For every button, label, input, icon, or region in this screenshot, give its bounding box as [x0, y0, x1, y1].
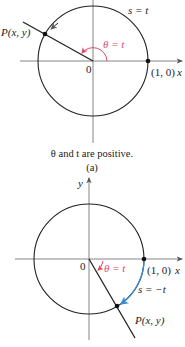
point-p-label: P(x, y): [134, 314, 165, 327]
x-axis-label: x: [176, 66, 182, 78]
angle-arc-icon: [98, 261, 103, 270]
point-unit: [146, 59, 151, 64]
figure-a: P(x, y) s = t θ = t 0 (1, 0) x θ and t a…: [0, 0, 182, 174]
sublabel-a: (a): [86, 162, 98, 174]
unit-point-label: (1, 0): [151, 66, 175, 79]
arc-length-label: s = t: [128, 4, 149, 16]
y-axis-label: y: [77, 177, 83, 189]
origin-label: 0: [86, 63, 92, 75]
figure-b: y 0 θ = t (1, 0) x s = −t P(x, y): [15, 177, 182, 340]
unit-point-label: (1, 0): [147, 264, 171, 277]
caption-a: θ and t are positive.: [51, 148, 133, 159]
arc-length-label: s = −t: [138, 283, 167, 295]
origin-label: 0: [80, 260, 86, 272]
x-axis-label: x: [174, 264, 180, 276]
point-p: [115, 304, 120, 309]
unit-circle-diagram: P(x, y) s = t θ = t 0 (1, 0) x θ and t a…: [0, 0, 185, 347]
point-p: [43, 32, 48, 37]
terminal-ray: [23, 22, 93, 61]
point-p-label: P(x, y): [0, 26, 31, 39]
angle-label: θ = t: [104, 262, 126, 274]
angle-label: θ = t: [103, 38, 125, 50]
point-unit: [142, 257, 147, 262]
